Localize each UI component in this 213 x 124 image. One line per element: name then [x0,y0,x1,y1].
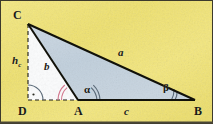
altitude-label-hc: hc [12,55,21,69]
side-label-b: b [44,61,50,72]
altitude-label-h-subscript: c [18,61,21,69]
right-angle-at-D-dot [32,93,34,95]
vertex-label-C: C [13,9,22,21]
vertex-label-A: A [74,105,83,117]
vertex-label-B: B [194,105,202,117]
side-label-a: a [118,47,124,58]
vertex-label-D: D [18,105,27,117]
angle-label-beta: β [163,82,169,93]
angle-label-alpha: α [84,84,90,95]
triangle-figure: C D A B a b c hc α β [0,0,213,124]
side-label-c: c [124,106,129,117]
figure-canvas [0,0,213,124]
